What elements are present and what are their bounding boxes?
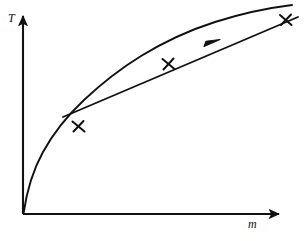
figure-root: T m (0, 0, 307, 241)
secant-line-group (63, 17, 298, 117)
secant-line (63, 17, 298, 117)
x-axis-label: m (248, 218, 257, 230)
marker-group (73, 15, 292, 132)
y-axis-label: T (8, 12, 15, 24)
data-point-marker-2 (163, 59, 175, 70)
axis-group (23, 16, 279, 214)
direction-arrowhead-icon (204, 40, 220, 47)
data-point-marker-1 (73, 121, 85, 132)
plot-canvas (0, 0, 307, 241)
